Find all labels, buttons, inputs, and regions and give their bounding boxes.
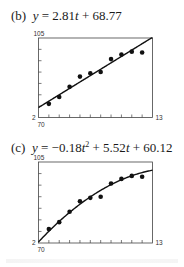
y-max-label: 105: [34, 154, 45, 161]
data-point: [98, 70, 103, 75]
data-point: [109, 181, 114, 186]
data-point: [119, 52, 124, 57]
intercept-value: + 68.77: [79, 8, 122, 23]
data-point: [129, 174, 134, 179]
x-max-label: 13: [156, 114, 164, 121]
data-point: [88, 196, 93, 201]
scatter-plot-b: 10527013: [0, 28, 184, 130]
data-point: [129, 49, 134, 54]
y-max-label: 105: [34, 30, 45, 37]
data-point: [140, 175, 145, 180]
data-point: [109, 57, 114, 62]
slope-value: 2.81: [52, 8, 75, 23]
plot-frame: [39, 38, 153, 118]
data-point: [78, 199, 83, 204]
data-point: [88, 71, 93, 76]
data-point: [57, 220, 62, 225]
data-point: [57, 95, 62, 100]
data-point: [98, 194, 103, 199]
data-point: [78, 74, 83, 79]
x-min-label: 2: [32, 114, 36, 121]
faded-text-line: [6, 259, 178, 263]
y-min-label: 70: [38, 246, 46, 253]
x-max-label: 13: [156, 239, 164, 246]
data-point: [140, 50, 145, 55]
equals-sign: =: [38, 8, 52, 23]
scatter-plot-c: 10527013: [0, 152, 184, 254]
figure-b-label: (b): [11, 8, 26, 23]
y-min-label: 70: [38, 121, 46, 128]
data-point: [119, 177, 124, 182]
x-min-label: 2: [32, 239, 36, 246]
figure-b-title: (b) y = 2.81t + 68.77: [11, 9, 122, 22]
data-point: [47, 102, 52, 107]
model-curve: [39, 170, 153, 242]
data-point: [67, 209, 72, 214]
data-point: [67, 85, 72, 90]
data-point: [47, 227, 52, 232]
model-curve: [39, 38, 153, 108]
